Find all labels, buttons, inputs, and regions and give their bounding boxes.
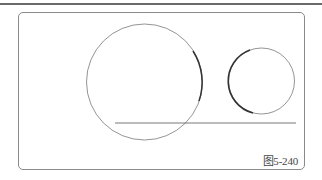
large-circle-thick-arc (193, 51, 202, 101)
figure-caption: 图5-240 (263, 152, 298, 168)
small-circle-thick-arc (228, 50, 253, 113)
